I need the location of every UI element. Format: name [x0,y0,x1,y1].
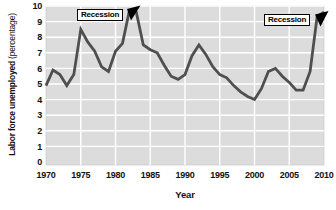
unemployment-line-chart: Labor force unemployed(percentage) 01234… [0,0,336,210]
x-tick-label: 2010 [315,170,334,180]
recession-label: Recession [264,14,310,26]
y-tick-label: 8 [37,32,42,42]
y-tick-label: 10 [33,1,43,11]
y-tick-label: 5 [37,79,42,89]
y-tick-label: 2 [37,126,42,136]
y-tick-label: 7 [37,48,42,58]
y-tick-label: 4 [37,95,42,105]
x-tick-label: 1980 [106,170,125,180]
y-tick-label: 6 [37,64,42,74]
y-tick-label: 9 [37,17,42,27]
x-tick-label: 2005 [280,170,299,180]
y-tick-label: 0 [37,157,42,167]
x-axis-title: Year [46,189,324,200]
x-tick-label: 1985 [141,170,160,180]
x-tick-label: 1975 [71,170,90,180]
recession-label: Recession [77,9,123,21]
y-tick-label: 3 [37,110,42,120]
x-tick-label: 2000 [245,170,264,180]
x-tick-label: 1990 [176,170,195,180]
y-tick-label: 1 [37,142,42,152]
x-tick-label: 1970 [37,170,56,180]
plot-area: 0123456789101970197519801985199019952000… [0,0,336,210]
x-tick-label: 1995 [210,170,229,180]
